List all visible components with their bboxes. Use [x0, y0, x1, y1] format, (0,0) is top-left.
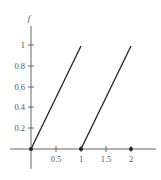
data-point	[129, 147, 133, 151]
data-line-segment-1	[31, 46, 81, 149]
x-tick-label: 1.5	[101, 154, 112, 164]
y-tick-label: 0.8	[14, 61, 25, 71]
data-point	[29, 147, 33, 151]
data-line-segment-2	[81, 46, 131, 149]
y-tick-label: 1	[21, 40, 25, 50]
y-tick-label: 0.6	[14, 82, 25, 92]
x-tick-label: 2	[129, 154, 133, 164]
x-tick-label: 0.5	[51, 154, 62, 164]
chart: f 0.2 0.4 0.6 0.8 1 0.5 1 1.5 2	[0, 0, 161, 180]
y-axis-label: f	[28, 13, 32, 23]
y-tick-label: 0.2	[14, 123, 25, 133]
x-tick-label: 1	[79, 154, 83, 164]
y-tick-label: 0.4	[14, 102, 25, 112]
data-point	[79, 147, 83, 151]
